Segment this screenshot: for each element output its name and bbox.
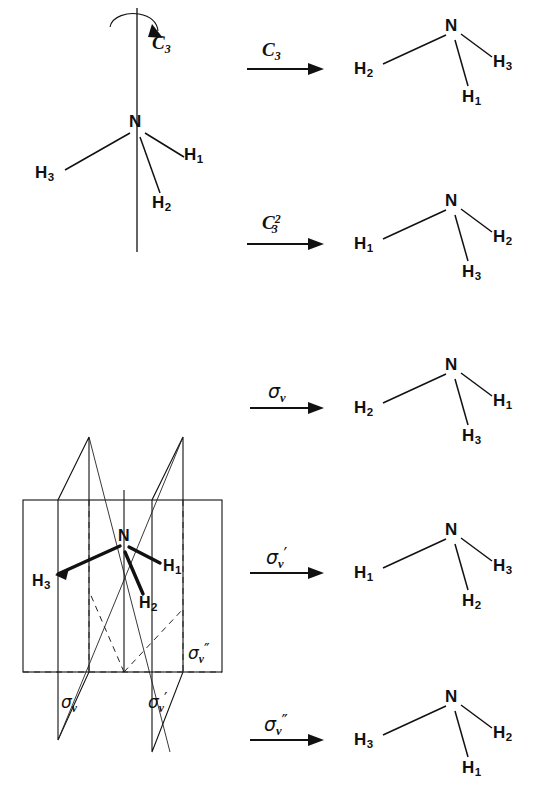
plane-atom-right: H1 bbox=[163, 558, 181, 577]
plane-atom-bottom: H2 bbox=[139, 595, 157, 614]
hidden-edge-diag-b bbox=[124, 609, 183, 672]
plane-bond-n-h1 bbox=[129, 547, 160, 563]
hidden-edge-diag-a bbox=[89, 591, 124, 672]
plane-bond-arrow-h3 bbox=[55, 568, 69, 580]
mirror-planes-diagram bbox=[0, 0, 533, 810]
plane-atom-left: H3 bbox=[32, 573, 50, 592]
plane-label-sigma-v-double-prime: σv″ bbox=[188, 643, 210, 666]
plane-label-sigma-v: σv bbox=[61, 692, 77, 715]
plane-label-sigma-v-prime: σv′ bbox=[148, 692, 167, 715]
figure-canvas: N H3 H1 H2 C3 C3 C23 σv σv′ σv″ bbox=[0, 0, 533, 810]
plane-atom-n: N bbox=[118, 528, 130, 544]
